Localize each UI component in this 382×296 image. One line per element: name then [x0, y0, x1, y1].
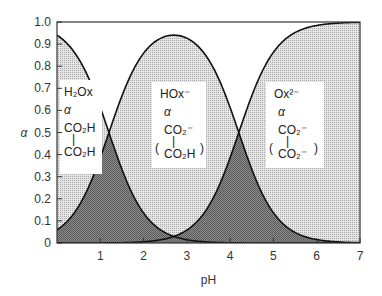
right-paren: ) — [314, 141, 318, 155]
structure-group: CO₂⁻ — [278, 147, 307, 161]
x-tick-label: 1 — [97, 249, 104, 263]
structure-group: CO₂H — [64, 121, 95, 135]
right-paren: ) — [200, 141, 204, 155]
y-tick-label: 0.3 — [34, 170, 51, 184]
y-tick-label: 0.2 — [34, 192, 51, 206]
y-tick-label: 0.5 — [34, 126, 51, 140]
speciation-chart: H₂OxαCO₂H|CO₂HHOx⁻αCO₂⁻|CO₂H()Ox²⁻αCO₂⁻|… — [0, 0, 382, 296]
species-formula: H₂Ox — [64, 85, 93, 99]
y-tick-label: 0.1 — [34, 214, 51, 228]
species-labels: H₂OxαCO₂H|CO₂HHOx⁻αCO₂⁻|CO₂H()Ox²⁻αCO₂⁻|… — [60, 80, 324, 174]
x-tick-label: 7 — [357, 249, 364, 263]
y-tick-label: 0.7 — [34, 81, 51, 95]
x-tick-label: 4 — [227, 249, 234, 263]
species-label-H2Ox: H₂OxαCO₂H|CO₂H — [60, 80, 102, 174]
bond-line: | — [72, 132, 75, 146]
structure-group: CO₂⁻ — [278, 123, 307, 137]
species-label-Ox2-: Ox²⁻αCO₂⁻|CO₂⁻() — [266, 82, 324, 168]
x-tick-label: 6 — [313, 249, 320, 263]
y-tick-label: 0.9 — [34, 37, 51, 51]
bond-line: | — [286, 134, 289, 148]
y-axis-title: α — [21, 126, 29, 140]
x-axis-title: pH — [201, 273, 216, 287]
structure-group: CO₂H — [164, 147, 195, 161]
y-tick-label: 0 — [44, 236, 51, 250]
y-tick-label: 0.6 — [34, 103, 51, 117]
alpha-symbol: α — [164, 105, 172, 119]
structure-group: CO₂H — [64, 145, 95, 159]
left-paren: ( — [269, 141, 273, 155]
species-formula: Ox²⁻ — [274, 87, 299, 101]
x-tick-label: 3 — [184, 249, 191, 263]
bond-line: | — [172, 134, 175, 148]
species-formula: HOx⁻ — [160, 87, 190, 101]
species-label-HOx-: HOx⁻αCO₂⁻|CO₂H() — [152, 82, 206, 168]
x-tick-label: 5 — [270, 249, 277, 263]
alpha-symbol: α — [64, 103, 72, 117]
left-paren: ( — [155, 141, 159, 155]
y-tick-label: 1.0 — [34, 15, 51, 29]
alpha-symbol: α — [278, 105, 286, 119]
y-tick-label: 0.4 — [34, 148, 51, 162]
y-tick-label: 0.8 — [34, 59, 51, 73]
x-tick-label: 2 — [140, 249, 147, 263]
structure-group: CO₂⁻ — [164, 123, 193, 137]
